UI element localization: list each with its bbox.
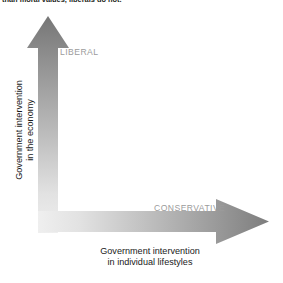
- x-axis-title: Government intervention in individual li…: [60, 246, 240, 269]
- y-axis-title: Government intervention in the economy: [14, 50, 37, 210]
- diagram-canvas: than moral values, liberals do not.: [0, 0, 283, 283]
- y-axis-title-line2: in the economy: [25, 50, 36, 210]
- label-liberal: LIBERAL: [60, 47, 99, 57]
- y-axis-title-line1: Government intervention: [14, 50, 25, 210]
- label-conservative: CONSERVATIVE: [154, 203, 225, 213]
- x-axis-title-line2: in individual lifestyles: [60, 257, 240, 268]
- x-axis-title-line1: Government intervention: [60, 246, 240, 257]
- axes-arrows: [0, 0, 283, 283]
